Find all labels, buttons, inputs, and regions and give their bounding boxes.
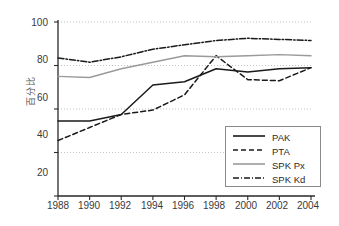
legend-label-pta: PTA <box>272 146 290 157</box>
legend-item-spk-px[interactable]: SPK Px <box>232 158 305 172</box>
plot-area <box>0 0 339 226</box>
legend-item-pta[interactable]: PTA <box>232 144 290 158</box>
line-chart: 百分比 100 80 60 40 20 1988 1990 1992 1994 … <box>0 0 339 226</box>
legend-swatch-pta <box>232 145 266 157</box>
series-spk-kd <box>58 38 311 62</box>
series-spk-px <box>58 55 311 78</box>
legend: PAK PTA SPK Px SPK Kd <box>225 126 321 187</box>
legend-swatch-pak <box>232 131 266 143</box>
legend-swatch-spk-kd <box>232 173 266 185</box>
legend-swatch-spk-px <box>232 159 266 171</box>
legend-label-spk-kd: SPK Kd <box>272 174 305 185</box>
legend-item-spk-kd[interactable]: SPK Kd <box>232 172 305 186</box>
legend-label-pak: PAK <box>272 132 290 143</box>
legend-label-spk-px: SPK Px <box>272 160 305 171</box>
legend-item-pak[interactable]: PAK <box>232 130 290 144</box>
